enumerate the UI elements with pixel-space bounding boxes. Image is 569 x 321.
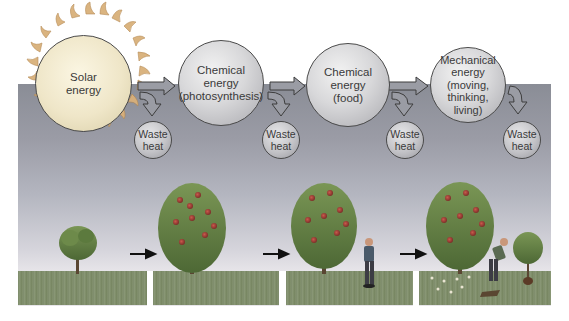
fruit-tree-icon — [291, 183, 357, 274]
waste-label-line: Waste — [266, 128, 295, 140]
fruit-tree-icon — [426, 182, 494, 274]
stage-label-line: Chemical energy — [179, 64, 263, 90]
waste-label-line: heat — [138, 140, 167, 152]
waste-heat-3: Waste heat — [386, 121, 424, 159]
stage-label-line: thinking, — [440, 91, 496, 104]
stage-chemical-food: Chemical energy (food) — [306, 43, 390, 127]
small-tree-icon — [59, 226, 97, 274]
stage-label-line: energy — [66, 84, 101, 97]
person-eating-icon — [363, 238, 375, 288]
waste-heat-2: Waste heat — [262, 121, 300, 159]
waste-heat-1: Waste heat — [134, 121, 172, 159]
stage-label-line: Solar — [66, 71, 101, 84]
stage-chemical-photosynthesis: Chemical energy (photosynthesis) — [178, 40, 264, 126]
stage-mechanical-energy: Mechanical energy (moving, thinking, liv… — [430, 47, 506, 123]
waste-label-line: heat — [266, 140, 295, 152]
stage-label-line: energy — [440, 66, 496, 79]
stage-label-line: (moving, — [440, 79, 496, 92]
stage-label-line: Mechanical — [440, 54, 496, 67]
fallen-fruit-icon — [431, 276, 471, 294]
stage-label-line: living) — [440, 104, 496, 117]
fruit-tree-icon — [158, 183, 226, 274]
waste-label-line: Waste — [507, 128, 536, 140]
stage-label-line: (food) — [324, 92, 372, 105]
waste-label-line: Waste — [138, 128, 167, 140]
stage-label-line: energy — [324, 79, 372, 92]
waste-label-line: heat — [390, 140, 419, 152]
young-potted-tree-icon — [513, 232, 543, 285]
waste-heat-4: Waste heat — [503, 121, 541, 159]
waste-label-line: Waste — [390, 128, 419, 140]
stage-label-line: Chemical — [324, 66, 372, 79]
stage-solar-energy: Solar energy — [35, 35, 132, 132]
stage-label-line: (photosynthesis) — [179, 90, 263, 103]
waste-label-line: heat — [507, 140, 536, 152]
